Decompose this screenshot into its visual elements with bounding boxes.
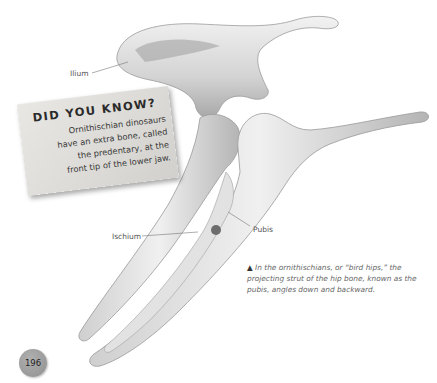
did-you-know-box: DID YOU KNOW? Ornithischian dinosaurs ha… xyxy=(17,86,179,196)
page-number-badge: 196 xyxy=(19,349,47,377)
ischium-label: Ischium xyxy=(112,232,141,241)
ornithischian-hip-bone-illustration xyxy=(0,0,437,383)
ilium-label: Ilium xyxy=(70,69,88,78)
did-you-know-text: Ornithischian dinosaurs have an extra bo… xyxy=(28,113,171,181)
caption-text: In the ornithischians, or “bird hips,” t… xyxy=(247,263,417,294)
triangle-up-icon: ▲ xyxy=(247,263,253,272)
pubis-label: Pubis xyxy=(253,225,273,234)
figure-caption: ▲ In the ornithischians, or “bird hips,”… xyxy=(247,262,433,295)
